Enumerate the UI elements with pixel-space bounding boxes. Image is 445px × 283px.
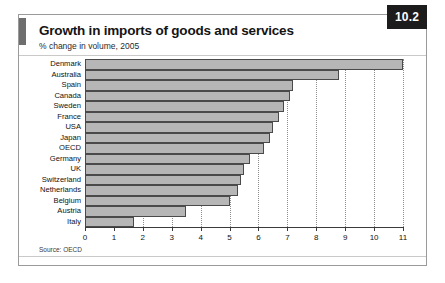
category-label: Netherlands <box>40 185 81 196</box>
bar <box>85 59 403 70</box>
x-tick-label: 1 <box>112 233 116 242</box>
bar-row <box>85 70 403 81</box>
bar <box>85 217 134 228</box>
bar-row <box>85 112 403 123</box>
category-label: Belgium <box>54 196 81 207</box>
category-label: Switzerland <box>42 175 81 186</box>
category-label: Italy <box>67 217 81 228</box>
x-tick-mark <box>143 227 144 231</box>
bar <box>85 143 264 154</box>
bar <box>85 175 241 186</box>
x-tick-label: 10 <box>370 233 379 242</box>
bar <box>85 70 339 81</box>
bar-row <box>85 143 403 154</box>
chart-subtitle: % change in volume, 2005 <box>39 41 139 51</box>
bar-row <box>85 101 403 112</box>
chart-title: Growth in imports of goods and services <box>39 23 294 38</box>
bar-row <box>85 164 403 175</box>
x-tick-mark <box>85 227 86 231</box>
category-label: OECD <box>59 143 81 154</box>
category-label: Japan <box>60 133 81 144</box>
x-tick-mark <box>287 227 288 231</box>
bar <box>85 101 284 112</box>
figure-number-badge: 10.2 <box>387 5 427 29</box>
x-tick-label: 3 <box>169 233 173 242</box>
bar <box>85 112 279 123</box>
category-label: Australia <box>51 70 81 81</box>
x-tick-mark <box>345 227 346 231</box>
bar-row <box>85 59 403 70</box>
bar-row <box>85 206 403 217</box>
x-tick-mark <box>201 227 202 231</box>
bar <box>85 154 250 165</box>
category-label: Canada <box>54 91 81 102</box>
x-tick-mark <box>403 227 404 231</box>
x-tick-label: 4 <box>198 233 202 242</box>
bar-row <box>85 91 403 102</box>
x-tick-label: 5 <box>227 233 231 242</box>
bar <box>85 133 270 144</box>
category-label: Denmark <box>50 59 81 70</box>
x-tick-mark <box>230 227 231 231</box>
bar-row <box>85 217 403 228</box>
bar <box>85 122 273 133</box>
category-label: UK <box>70 164 81 175</box>
x-tick-label: 11 <box>399 233 407 242</box>
bar-row <box>85 122 403 133</box>
x-tick-mark <box>374 227 375 231</box>
x-tick-label: 7 <box>285 233 289 242</box>
category-label: Sweden <box>54 101 81 112</box>
x-tick-mark <box>114 227 115 231</box>
source-divider <box>19 256 426 257</box>
x-tick-label: 8 <box>314 233 318 242</box>
category-label: France <box>57 112 81 123</box>
category-label: Germany <box>50 154 81 165</box>
bar <box>85 91 290 102</box>
bar-row <box>85 133 403 144</box>
category-axis-labels: DenmarkAustraliaSpainCanadaSwedenFranceU… <box>19 59 81 227</box>
x-tick-mark <box>258 227 259 231</box>
figure-left-tab <box>19 18 26 45</box>
bar-row <box>85 154 403 165</box>
x-tick-label: 9 <box>343 233 347 242</box>
bar <box>85 80 293 91</box>
plot-area <box>85 59 403 227</box>
x-tick-mark <box>172 227 173 231</box>
gridline <box>403 59 404 227</box>
bar-row <box>85 185 403 196</box>
category-label: Spain <box>62 80 81 91</box>
bar-row <box>85 80 403 91</box>
figure-panel: 10.2 Growth in imports of goods and serv… <box>18 14 427 266</box>
bar <box>85 164 244 175</box>
title-divider <box>19 55 426 56</box>
bar-row <box>85 196 403 207</box>
bar <box>85 206 186 217</box>
bar <box>85 185 238 196</box>
x-tick-label: 6 <box>256 233 260 242</box>
source-note: Source: OECD <box>39 246 82 253</box>
x-tick-label: 0 <box>83 233 87 242</box>
bar-row <box>85 175 403 186</box>
bar <box>85 196 230 207</box>
x-tick-mark <box>316 227 317 231</box>
x-tick-label: 2 <box>141 233 145 242</box>
category-label: Austria <box>57 206 81 217</box>
category-label: USA <box>65 122 81 133</box>
x-axis-line <box>85 227 403 228</box>
